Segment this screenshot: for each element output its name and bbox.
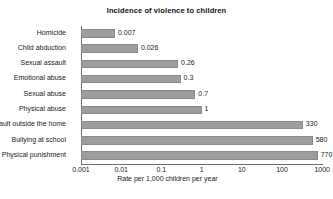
x-axis-tick-label: 0.001 [72,166,90,173]
bar [81,151,318,160]
bar [81,60,178,69]
bar-row: Emotional abuse0.3 [81,72,322,87]
bar-value-label: 0.026 [141,43,159,53]
x-axis-tick-label: 100 [276,166,288,173]
x-axis-tick-label: 1000 [314,166,330,173]
x-axis-line [81,164,323,165]
plot-area: Homicide0.007Child abduction0.026Sexual … [81,26,322,164]
bar-value-label: 770 [321,150,333,160]
category-label: Emotional abuse [0,73,66,83]
x-axis-tick-label: 10 [238,166,246,173]
bar-value-label: 330 [306,119,318,129]
category-label: Assault outside the home [0,119,66,129]
bar [81,106,202,115]
category-label: Sexual assault [0,58,66,68]
category-label: Physical punishment [0,150,66,160]
x-axis-label: Rate per 1,000 children per year [117,175,217,182]
bar-value-label: 0.007 [118,28,136,38]
category-label: Homicide [0,28,66,38]
bar [81,29,115,38]
x-axis-tick-label: 0.01 [114,166,128,173]
bar-value-label: 0.26 [181,58,195,68]
bar-row: Sexual abuse0.7 [81,87,322,102]
category-label: Physical abuse [0,104,66,114]
category-label: Child abduction [0,43,66,53]
bar-value-label: 1 [205,104,209,114]
bar [81,136,313,145]
bar-row: Bullying at school580 [81,133,322,148]
x-axis-tick-label: 1 [200,166,204,173]
bar-value-label: 0.7 [198,89,208,99]
category-label: Bullying at school [0,135,66,145]
bar-row: Physical abuse1 [81,103,322,118]
bar-value-label: 0.3 [184,73,194,83]
bar-row: Physical punishment770 [81,148,322,163]
chart-title: Incidence of violence to children [0,6,333,15]
bar-value-label: 580 [316,135,328,145]
x-axis-tick-label: 0.1 [157,166,167,173]
bar [81,44,138,53]
bar-row: Sexual assault0.26 [81,57,322,72]
bar [81,121,303,130]
bar-row: Assault outside the home330 [81,118,322,133]
chart-figure: Incidence of violence to children Homici… [0,0,333,199]
bar [81,75,181,84]
bar-row: Homicide0.007 [81,26,322,41]
bar [81,90,195,99]
category-label: Sexual abuse [0,89,66,99]
bar-row: Child abduction0.026 [81,41,322,56]
